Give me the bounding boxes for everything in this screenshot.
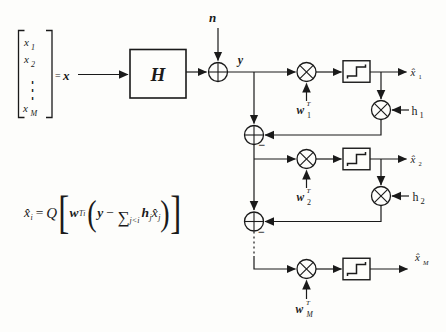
feedback1-multiplier — [372, 101, 391, 120]
detector-equation: x̂i=Q[wTi(y−∑j<ihjx̂j)] — [24, 182, 182, 244]
feedback2-gain-label: h — [413, 190, 419, 204]
received-signal-label: y — [236, 53, 244, 67]
feedback1-gain-label: h — [412, 104, 418, 118]
weightM-sup: T — [306, 299, 311, 307]
noise-adder-junction — [209, 63, 228, 82]
weight1-label: w — [297, 104, 305, 116]
weight1-sub: 1 — [307, 111, 311, 120]
diagram-canvas: x 1 x 2 ⋮ x M = x H n y w T 1 x̂ 1 h — [0, 0, 446, 332]
weightM-multiplier — [297, 260, 316, 279]
weight2-sup: T — [307, 187, 312, 195]
feedback2-path-arrow — [265, 206, 381, 222]
vector-entry-x2: x — [23, 53, 29, 65]
weight1-sup: T — [307, 100, 312, 108]
vector-entry-xM-sub: M — [30, 109, 39, 118]
vector-equals-sign: = — [55, 70, 61, 81]
eq-lhs: x̂ — [24, 205, 30, 221]
quantizer1-block — [343, 61, 370, 83]
feedback2-multiplier — [372, 187, 391, 206]
eq-minus: − — [105, 205, 114, 221]
branch-to-multM-arrow — [254, 256, 296, 269]
subtractor2-minus-sign: − — [258, 225, 265, 239]
output1-sub: 1 — [419, 73, 422, 80]
weightM-label: w — [296, 303, 304, 315]
output2-label: x̂ — [410, 153, 416, 165]
quantizerM-block — [343, 258, 370, 280]
block-diagram-screen: x 1 x 2 ⋮ x M = x H n y w T 1 x̂ 1 h — [0, 0, 446, 332]
quantizer2-block — [343, 148, 370, 170]
noise-label: n — [209, 10, 216, 25]
vector-right-bracket — [46, 31, 52, 118]
outputM-sub: M — [422, 259, 429, 266]
eq-weight: w — [70, 205, 79, 221]
eq-weight-sub: i — [83, 210, 85, 219]
vector-entry-x1-sub: 1 — [31, 43, 35, 52]
eq-sum-condition: j<i — [130, 217, 140, 225]
weight1-multiplier — [297, 63, 316, 82]
weight2-multiplier — [297, 150, 316, 169]
weight2-label: w — [297, 191, 305, 203]
feedback1-path-arrow — [265, 120, 381, 136]
weightM-sub: M — [306, 310, 314, 319]
eq-feedback-sub: j — [149, 213, 151, 222]
vector-ellipsis: ⋮ — [26, 76, 39, 102]
eq-estimate: x̂ — [152, 205, 158, 221]
eq-equals: = — [36, 205, 44, 221]
eq-lhs-sub: i — [31, 213, 33, 222]
weight2-sub: 2 — [307, 198, 311, 207]
eq-weight-scripts: Ti — [79, 210, 85, 219]
eq-received: y — [97, 205, 103, 221]
vector-entry-x2-sub: 2 — [31, 60, 35, 69]
vector-entry-x1: x — [23, 36, 29, 48]
channel-block-label: H — [150, 64, 167, 85]
eq-summation: ∑j<i — [117, 209, 139, 226]
outputM-label: x̂ — [414, 251, 420, 263]
feedback1-gain-sub: 1 — [420, 110, 424, 120]
eq-sigma: ∑ — [117, 209, 129, 226]
eq-quantizer-operator: Q — [46, 205, 57, 222]
output1-label: x̂ — [410, 66, 416, 78]
eq-feedback: h — [141, 205, 149, 221]
vector-name-label: x — [62, 68, 70, 83]
feedback2-gain-sub: 2 — [421, 196, 425, 206]
vector-entry-xM: x — [22, 102, 28, 114]
subtractor1-minus-sign: − — [259, 138, 266, 152]
output2-sub: 2 — [419, 160, 422, 167]
